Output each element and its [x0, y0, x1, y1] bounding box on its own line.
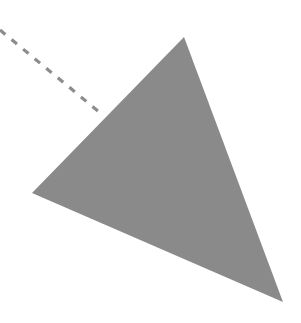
dashed-pointer-line: [0, 30, 104, 116]
gray-triangle: [32, 37, 283, 302]
diagram-canvas: [0, 0, 301, 323]
diagram-svg: [0, 0, 301, 323]
